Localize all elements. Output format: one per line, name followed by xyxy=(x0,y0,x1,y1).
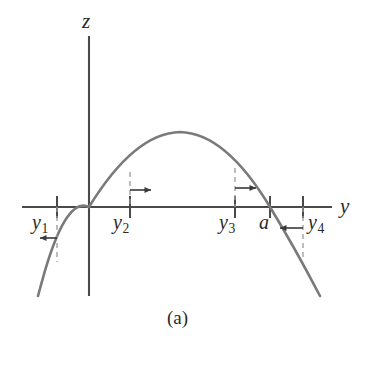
tick-label-y3: y3 xyxy=(219,212,235,235)
parabola-curve xyxy=(38,132,320,296)
tick-label-y4: y4 xyxy=(308,212,324,235)
figure-container: z y y1 y2 y3 a y4 (a) xyxy=(0,0,376,366)
tick-label-y3-sub: 3 xyxy=(228,221,235,236)
tick-label-y2-sub: 2 xyxy=(122,221,129,236)
tick-label-a-text: a xyxy=(259,211,269,233)
figure-caption: (a) xyxy=(167,308,188,327)
tick-label-y3-text: y xyxy=(219,211,228,233)
x-axis-label: y xyxy=(340,196,349,217)
flow-arrow-y3 xyxy=(235,185,256,191)
tick-label-a: a xyxy=(259,212,270,235)
tick-label-y1-sub: 1 xyxy=(41,221,48,236)
tick-label-y2: y2 xyxy=(113,212,129,235)
flow-arrow-y2 xyxy=(130,187,151,193)
tick-label-y1-text: y xyxy=(32,211,41,233)
tick-label-y2-text: y xyxy=(113,211,122,233)
tick-label-y4-text: y xyxy=(308,211,317,233)
tick-label-y1: y1 xyxy=(32,212,48,235)
tick-label-y4-sub: 4 xyxy=(317,221,324,236)
y-axis-label: z xyxy=(82,11,90,32)
